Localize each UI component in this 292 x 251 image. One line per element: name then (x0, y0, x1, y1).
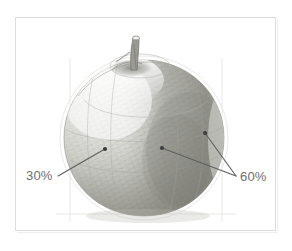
drawing-content (56, 36, 240, 223)
apple-shading-group (60, 54, 240, 221)
stem-top (132, 36, 139, 40)
core-shadow-inner (142, 114, 210, 206)
target-dot-60-a (160, 146, 164, 150)
callout-label-30-percent: 30% (26, 169, 53, 182)
apple-pencil-drawing (0, 0, 292, 251)
target-dot-30 (103, 147, 107, 151)
figure-root: 30% 60% (0, 0, 292, 251)
cast-shadow (86, 209, 210, 223)
callout-label-60-percent: 60% (240, 170, 267, 183)
target-dot-60-b (203, 131, 207, 135)
